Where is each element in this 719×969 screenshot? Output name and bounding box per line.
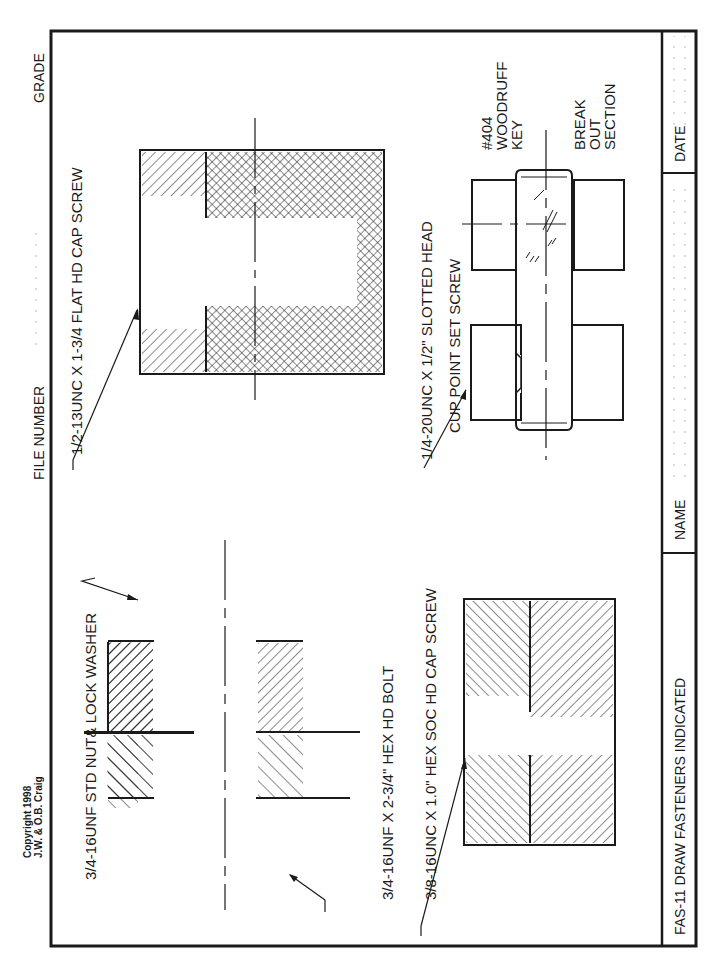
- shaft-hub-section: [471, 170, 624, 430]
- copyright-line-2: J.W. & O.B. Craig: [33, 776, 44, 858]
- name-label: NAME: [672, 500, 688, 540]
- socket-head-cap-screw-section: [464, 599, 615, 845]
- breakout-callout-line-3: SECTION: [601, 83, 618, 150]
- woodruff-callout-line-3: KEY: [508, 120, 525, 150]
- set-screw-callout-line-1: 1/4-20UNC X 1/2" SLOTTED HEAD: [418, 221, 435, 460]
- drawing-title: FAS-11 DRAW FASTENERS INDICATED: [672, 678, 688, 935]
- set-screw-callout-line-2: CUP POINT SET SCREW: [446, 258, 463, 433]
- file-number-field[interactable]: [26, 230, 40, 350]
- date-label: DATE: [672, 126, 688, 162]
- bolt-head-right: [256, 641, 360, 798]
- name-field[interactable]: [670, 180, 690, 480]
- file-number-label: FILE NUMBER: [31, 386, 47, 480]
- hex-bolt-callout: 3/4-16UNF X 2-3/4" HEX HD BOLT: [379, 666, 396, 900]
- date-field[interactable]: [670, 36, 690, 126]
- flat-head-cap-screw-section: [140, 150, 384, 374]
- nut-washer-callout: 3/4-16UNF STD NUT& LOCK WASHER: [82, 613, 99, 880]
- flat-head-callout: 1/2-13UNC X 1-3/4 FLAT HD CAP SCREW: [68, 167, 85, 455]
- copyright-line-1: Copyright 1998: [22, 785, 33, 858]
- nut-left: [107, 641, 194, 800]
- drawing-sheet: GRADE FILE NUMBER Copyright 1998 J.W. & …: [0, 0, 719, 969]
- grade-label: GRADE: [31, 53, 47, 103]
- socket-screw-callout: 3/8-16UNC X 1.0" HEX SOC HD CAP SCREW: [422, 587, 439, 900]
